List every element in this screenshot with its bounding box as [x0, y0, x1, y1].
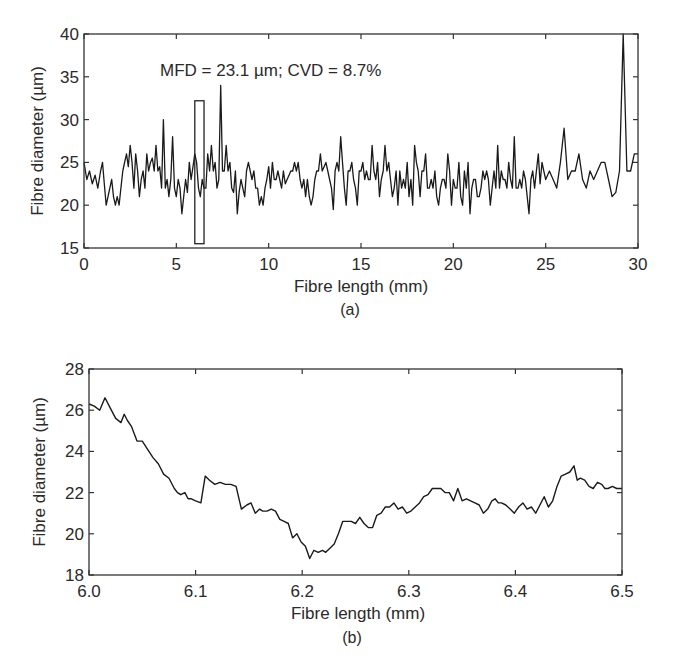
chart-panel-a: 051015202530 152025303540 MFD = 23.1 µm;…: [28, 25, 647, 318]
series-line: [89, 398, 622, 559]
caption-a: (a): [340, 301, 360, 318]
x-tick-label: 6.4: [504, 582, 528, 601]
data-line-b: [89, 398, 622, 559]
y-tick-label: 40: [60, 25, 79, 44]
y-tick-label: 18: [65, 566, 84, 585]
y-tick-label: 24: [65, 442, 84, 461]
y-tick-label: 25: [60, 153, 79, 172]
x-tick-label: 20: [444, 255, 463, 274]
figure: 051015202530 152025303540 MFD = 23.1 µm;…: [0, 0, 675, 671]
plot-frame-b: [89, 369, 622, 575]
y-axis-label-a: Fibre diameter (µm): [28, 66, 47, 216]
x-tick-label: 0: [79, 255, 88, 274]
x-tick-label: 6.1: [184, 582, 208, 601]
y-tick-label: 20: [65, 525, 84, 544]
x-tick-label: 25: [536, 255, 555, 274]
x-axis-label-b: Fibre length (mm): [291, 604, 425, 623]
x-axis-label-a: Fibre length (mm): [294, 277, 428, 296]
x-tick-label: 6.2: [290, 582, 314, 601]
y-axis-label-b: Fibre diameter (µm): [30, 397, 49, 547]
x-tick-label: 15: [352, 255, 371, 274]
y-tick-label: 22: [65, 484, 84, 503]
x-tick-label: 5: [172, 255, 181, 274]
y-tick-label: 15: [60, 239, 79, 258]
highlight-box: [195, 101, 204, 244]
y-tick-label: 28: [65, 360, 84, 379]
y-axis-ticks-b: 182022242628: [65, 360, 622, 585]
y-tick-label: 35: [60, 68, 79, 87]
y-axis-ticks-a: 152025303540: [60, 25, 638, 258]
zoom-region-rect: [195, 101, 204, 244]
x-axis-ticks-b: 6.06.16.26.36.46.5: [77, 369, 634, 601]
y-tick-label: 30: [60, 111, 79, 130]
y-tick-label: 20: [60, 196, 79, 215]
x-tick-label: 6.3: [397, 582, 421, 601]
stats-annotation: MFD = 23.1 µm; CVD = 8.7%: [160, 61, 381, 80]
caption-b: (b): [342, 629, 362, 646]
x-tick-label: 30: [629, 255, 648, 274]
x-tick-label: 10: [259, 255, 278, 274]
x-tick-label: 6.5: [610, 582, 634, 601]
y-tick-label: 26: [65, 401, 84, 420]
chart-panel-b: 6.06.16.26.36.46.5 182022242628 Fibre le…: [30, 360, 634, 646]
